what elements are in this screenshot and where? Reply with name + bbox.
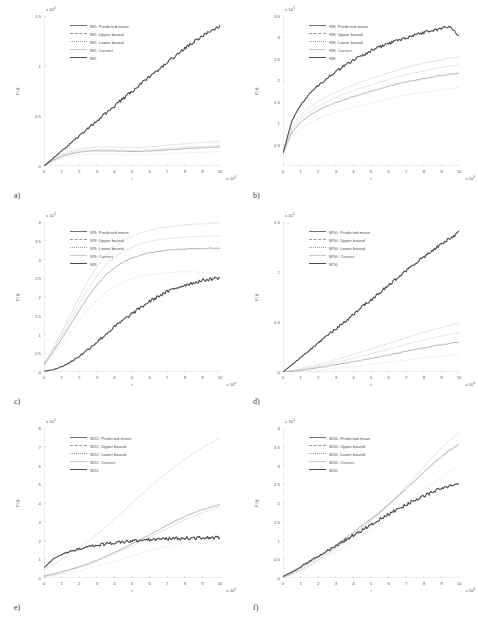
x-tick-label: 5: [131, 580, 133, 586]
legend-label: W5: Upper bound: [90, 32, 124, 37]
legend-item: W10: [309, 260, 370, 268]
y-tick-label: 8: [38, 426, 42, 431]
x-tick-label: 0: [282, 580, 284, 586]
series-line-observed: [44, 277, 220, 371]
y-tick-label: 0: [277, 576, 281, 581]
x-tick-label: 2: [78, 374, 80, 380]
legend-e: W12: Predicted meanW12: Upper boundW12: …: [70, 434, 131, 474]
y-tick-label: 4: [277, 426, 281, 431]
x-tick-label: 7: [405, 580, 407, 586]
plot-area-b: 0123456789100.511.522.533.5F(t)tx 103x 1…: [283, 16, 459, 166]
plot-panel-e: 012345678910012345678F(t)tx 103x 104W12:…: [0, 412, 239, 618]
panel-letter-e: e): [14, 603, 20, 612]
legend-label: W12: Lower bound: [90, 452, 126, 457]
legend-label: W10: Lower bound: [329, 246, 365, 251]
legend-label: W12: Predicted mean: [90, 436, 131, 441]
x-tick-label: 8: [184, 580, 186, 586]
legend-item: W5: [70, 54, 129, 62]
panel-letter-c: c): [14, 397, 20, 406]
legend-f: W10: Predicted meanW10: Upper boundW10: …: [309, 434, 370, 474]
x-tick-label: 2: [317, 580, 319, 586]
legend-label: W12: Upper bound: [90, 444, 126, 449]
x-tick-label: 4: [352, 168, 354, 174]
legend-item: W8: Upper bound: [309, 30, 368, 38]
series-line-lower: [44, 272, 220, 366]
legend-label: W10: Predicted mean: [329, 230, 370, 235]
legend-label: W10: Upper bound: [329, 238, 365, 243]
x-tick-label: 0: [282, 374, 284, 380]
y-axis-label: F(t): [15, 499, 20, 506]
x-tick-label: 8: [184, 374, 186, 380]
series-line-upper: [283, 57, 459, 153]
series-line-observed: [44, 536, 220, 568]
legend-item: W9: Correct: [70, 252, 129, 260]
legend-a: W5: Predicted meanW5: Upper boundW5: Low…: [70, 22, 129, 62]
legend-item: W5: Correct: [70, 46, 129, 54]
y-tick-label: 3: [38, 519, 42, 524]
x-tick-label: 7: [405, 168, 407, 174]
y-tick-label: 2.5: [274, 482, 281, 487]
y-tick-label: 0.5: [274, 142, 281, 147]
x-tick-label: 1: [60, 168, 62, 174]
y-axis-multiplier: x 103: [285, 418, 295, 424]
x-tick-label: 4: [113, 374, 115, 380]
x-tick-label: 10: [457, 580, 462, 586]
plot-area-f: 01234567891000.511.522.533.54F(t)tx 103x…: [283, 428, 459, 578]
legend-label: W5: Lower bound: [90, 40, 124, 45]
legend-label: W10: Lower bound: [329, 452, 365, 457]
legend-item: W5: Upper bound: [70, 30, 129, 38]
x-tick-label: 5: [131, 374, 133, 380]
x-tick-label: 3: [335, 580, 337, 586]
x-tick-label: 2: [317, 374, 319, 380]
x-tick-label: 2: [78, 168, 80, 174]
plot-area-d: 01234567891000.511.5F(t)tx 104x 104W10: …: [283, 222, 459, 372]
legend-label: W10: Correct: [329, 460, 354, 465]
y-tick-label: 1: [38, 332, 42, 337]
legend-label: W8: Upper bound: [329, 32, 363, 37]
x-tick-label: 3: [335, 374, 337, 380]
y-tick-label: 3: [277, 35, 281, 40]
legend-label: W8: Correct: [329, 48, 352, 53]
legend-item: W10: Upper bound: [309, 442, 370, 450]
legend-item: W12: [70, 466, 131, 474]
y-tick-label: 1: [38, 557, 42, 562]
plot-panel-b: 0123456789100.511.522.533.5F(t)tx 103x 1…: [239, 0, 478, 206]
series-line-mean: [44, 505, 220, 577]
x-tick-label: 10: [218, 168, 223, 174]
y-tick-label: 2: [38, 538, 42, 543]
plot-area-e: 012345678910012345678F(t)tx 103x 104W12:…: [44, 428, 220, 578]
x-tick-label: 9: [440, 374, 442, 380]
y-tick-label: 0: [38, 164, 42, 169]
y-axis-multiplier: x 103: [46, 212, 56, 218]
series-line-correct: [44, 145, 220, 166]
series-line-correct: [283, 65, 459, 153]
y-tick-label: 0: [38, 576, 42, 581]
y-tick-label: 4: [38, 501, 42, 506]
x-tick-label: 5: [370, 374, 372, 380]
legend-item: W8: [309, 54, 368, 62]
x-tick-label: 5: [370, 168, 372, 174]
y-axis-multiplier: x 103: [285, 6, 295, 12]
x-tick-label: 0: [282, 168, 284, 174]
x-tick-label: 3: [335, 168, 337, 174]
legend-item: W12: Predicted mean: [70, 434, 131, 442]
x-tick-label: 1: [299, 374, 301, 380]
x-tick-label: 4: [352, 374, 354, 380]
x-tick-label: 7: [405, 374, 407, 380]
legend-item: W10: [309, 466, 370, 474]
legend-item: W10: Correct: [309, 458, 370, 466]
legend-d: W10: Predicted meanW10: Upper boundW10: …: [309, 228, 370, 268]
legend-label: W8: [329, 56, 335, 61]
y-axis-label: F(t): [254, 293, 259, 300]
series-line-upper: [44, 141, 220, 166]
panel-letter-d: d): [253, 397, 260, 406]
x-tick-label: 3: [96, 168, 98, 174]
x-tick-label: 4: [352, 580, 354, 586]
x-tick-label: 8: [184, 168, 186, 174]
legend-item: W10: Predicted mean: [309, 228, 370, 236]
legend-label: W10: Correct: [329, 254, 354, 259]
x-tick-label: 0: [43, 580, 45, 586]
x-tick-label: 9: [201, 168, 203, 174]
x-axis-multiplier: x 104: [465, 587, 475, 593]
y-tick-label: 2.5: [35, 276, 42, 281]
